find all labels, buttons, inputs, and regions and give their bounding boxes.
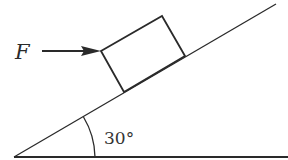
force-arrowhead-icon (81, 46, 101, 56)
angle-arc (84, 117, 96, 157)
angle-label: 30° (104, 128, 134, 148)
force-label: F (14, 40, 31, 64)
incline-diagram: 30° F (0, 0, 288, 160)
block (101, 16, 185, 92)
